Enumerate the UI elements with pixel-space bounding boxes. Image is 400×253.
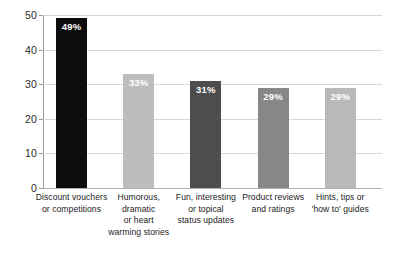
bar-2[interactable]: 33% <box>123 74 154 188</box>
plot-area: 49%33%31%29%29% <box>43 15 382 188</box>
y-tick-label-30: 30 <box>3 79 37 90</box>
y-tick-mark-50 <box>39 15 43 16</box>
bar-value-label-3: 31% <box>190 85 221 95</box>
y-tick-mark-20 <box>39 119 43 120</box>
gridline-0 <box>43 188 382 189</box>
x-axis-category-labels: Discount vouchersor competitionsHumorous… <box>43 192 382 252</box>
y-tick-mark-40 <box>39 50 43 51</box>
y-tick-mark-0 <box>39 188 43 189</box>
bar-value-label-2: 33% <box>123 78 154 88</box>
gridline-50 <box>43 15 382 16</box>
bar-4[interactable]: 29% <box>258 88 289 188</box>
bar-value-label-5: 29% <box>325 92 356 102</box>
y-tick-label-20: 20 <box>3 114 37 125</box>
y-tick-mark-30 <box>39 84 43 85</box>
bar-value-label-4: 29% <box>258 92 289 102</box>
bar-5[interactable]: 29% <box>325 88 356 188</box>
bar-chart: 01020304050 49%33%31%29%29% Discount vou… <box>0 0 400 253</box>
gridline-40 <box>43 50 382 51</box>
bar-value-label-1: 49% <box>56 22 87 32</box>
y-tick-label-10: 10 <box>3 148 37 159</box>
bar-1[interactable]: 49% <box>56 18 87 188</box>
y-tick-mark-10 <box>39 153 43 154</box>
y-tick-label-40: 40 <box>3 45 37 56</box>
category-label-5: Hints, tips or'how to' guides <box>300 192 380 215</box>
bar-3[interactable]: 31% <box>190 81 221 188</box>
y-tick-label-50: 50 <box>3 10 37 21</box>
